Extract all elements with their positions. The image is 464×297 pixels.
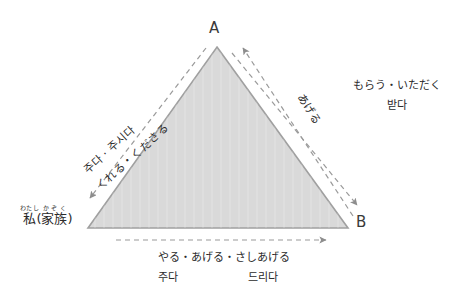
receiving-korean-label: 받다 bbox=[338, 100, 456, 113]
giving-korean-row: 주다 드리다 bbox=[110, 272, 338, 289]
self-paren-close: ) bbox=[67, 211, 72, 226]
self-kanji-kazoku-base: 家族 bbox=[41, 211, 67, 226]
self-kanji-watashi: 私わたし bbox=[20, 211, 36, 226]
receiving-japanese-label: もらう・いただく bbox=[353, 79, 441, 92]
giving-verbs-block: やる・あげる・さしあげる 주다 드리다 bbox=[110, 252, 338, 289]
giving-korean-label-2: 드리다 bbox=[248, 272, 278, 285]
vertex-label-b: B bbox=[356, 214, 366, 231]
self-ruby-watashi: わたし bbox=[20, 204, 39, 211]
giving-japanese-label: やる・あげる・さしあげる bbox=[110, 252, 338, 265]
receiving-verbs-block: もらう・いただく 받다 bbox=[338, 80, 456, 112]
vertex-label-a: A bbox=[209, 20, 219, 37]
self-kanji-kazoku: 家族かぞく bbox=[41, 211, 67, 226]
self-ruby-kazoku: かぞく bbox=[41, 204, 67, 211]
diagram-canvas: A B 주다 · 주시다 くれる・くださる あげる もらう・いただく 받다 私わ… bbox=[0, 0, 464, 297]
giving-korean-label-1: 주다 bbox=[158, 272, 178, 285]
self-label: 私わたし(家族かぞく) bbox=[20, 204, 73, 227]
